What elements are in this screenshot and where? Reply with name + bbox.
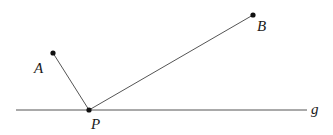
- label-g: g: [311, 101, 319, 117]
- label-b: B: [257, 18, 266, 34]
- geometry-diagram: A B P g: [0, 0, 333, 135]
- point-p: [86, 107, 91, 112]
- label-p: P: [90, 116, 100, 132]
- point-b: [250, 12, 255, 17]
- segment-pb: [89, 15, 253, 110]
- segment-ap: [53, 53, 89, 110]
- label-a: A: [33, 60, 44, 76]
- point-a: [50, 50, 55, 55]
